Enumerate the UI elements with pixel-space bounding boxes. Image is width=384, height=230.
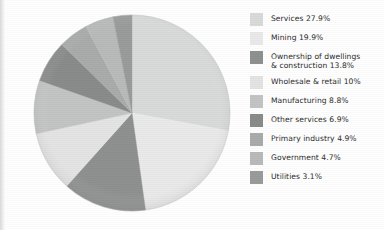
legend-swatch	[250, 76, 263, 89]
legend-item[interactable]: Ownership of dwellings & construction 13…	[250, 50, 382, 70]
legend-swatch	[250, 51, 263, 64]
legend-label: Services 27.9%	[271, 12, 330, 23]
legend-swatch	[250, 32, 263, 45]
legend-label: Primary industry 4.9%	[271, 132, 357, 143]
legend-label: Manufacturing 8.8%	[271, 94, 349, 105]
legend-item[interactable]: Manufacturing 8.8%	[250, 94, 382, 108]
chart-legend: Services 27.9%Mining 19.9%Ownership of d…	[250, 12, 382, 189]
chart-canvas: Services 27.9%Mining 19.9%Ownership of d…	[0, 0, 384, 230]
legend-label: Mining 19.9%	[271, 31, 323, 42]
legend-label: Other services 6.9%	[271, 113, 349, 124]
legend-item[interactable]: Utilities 3.1%	[250, 170, 382, 184]
legend-item[interactable]: Services 27.9%	[250, 12, 382, 26]
legend-swatch	[250, 133, 263, 146]
legend-item[interactable]: Primary industry 4.9%	[250, 132, 382, 146]
legend-item[interactable]: Other services 6.9%	[250, 113, 382, 127]
pie-edge-shading	[34, 15, 230, 211]
legend-label: Government 4.7%	[271, 151, 341, 162]
legend-item[interactable]: Government 4.7%	[250, 151, 382, 165]
pie-svg	[32, 13, 232, 213]
legend-swatch	[250, 114, 263, 127]
legend-swatch	[250, 95, 263, 108]
pie-chart	[32, 13, 232, 213]
legend-label: Ownership of dwellings & construction 13…	[271, 50, 360, 70]
legend-item[interactable]: Wholesale & retail 10%	[250, 75, 382, 89]
scan-edge-strip	[0, 0, 5, 230]
legend-label: Wholesale & retail 10%	[271, 75, 361, 86]
legend-item[interactable]: Mining 19.9%	[250, 31, 382, 45]
legend-swatch	[250, 13, 263, 26]
legend-swatch	[250, 152, 263, 165]
legend-label: Utilities 3.1%	[271, 170, 322, 181]
legend-swatch	[250, 171, 263, 184]
